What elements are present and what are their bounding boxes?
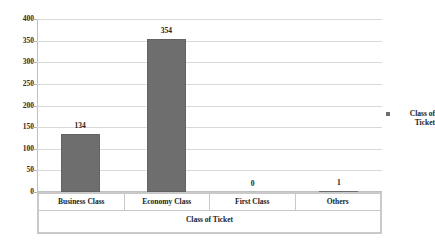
gridline-400 (37, 19, 382, 20)
table-row-axis-title: Class of Ticket (39, 211, 381, 232)
bar-business-class[interactable] (61, 134, 100, 192)
y-axis-label-0: 0 (4, 188, 34, 196)
y-axis-label-400: 400 (4, 15, 34, 23)
data-label-economy-class: 354 (137, 27, 196, 35)
y-axis-label-300: 300 (4, 58, 34, 66)
y-axis-label-250: 250 (4, 80, 34, 88)
legend-label: Class ofTicket (393, 110, 435, 127)
legend-label-line2: Ticket (415, 118, 435, 127)
legend-swatch-icon (386, 112, 390, 116)
y-axis-label-100: 100 (4, 145, 34, 153)
bar-chart: 400 350 300 250 200 150 100 50 0 134 354… (0, 0, 435, 246)
chart-legend: Class ofTicket (386, 110, 435, 127)
gridline-350 (37, 41, 382, 42)
data-label-business-class: 134 (51, 122, 110, 130)
plot-area: 134 354 0 1 (37, 19, 382, 192)
category-cell-business-class: Business Class (39, 194, 125, 211)
gridline-200 (37, 106, 382, 107)
y-axis-label-350: 350 (4, 37, 34, 45)
y-axis-label-50: 50 (4, 166, 34, 174)
category-cell-economy-class: Economy Class (124, 194, 210, 211)
y-axis-label-200: 200 (4, 102, 34, 110)
gridline-300 (37, 62, 382, 63)
category-cell-first-class: First Class (210, 194, 296, 211)
bar-economy-class[interactable] (147, 39, 186, 192)
y-axis-label-150: 150 (4, 123, 34, 131)
gridline-250 (37, 84, 382, 85)
x-axis-title: Class of Ticket (39, 211, 381, 232)
category-axis-table: Business Class Economy Class First Class… (37, 192, 382, 234)
category-cell-others: Others (295, 194, 381, 211)
table-row-categories: Business Class Economy Class First Class… (39, 194, 381, 211)
data-label-first-class: 0 (223, 180, 282, 188)
data-label-others: 1 (309, 179, 368, 187)
